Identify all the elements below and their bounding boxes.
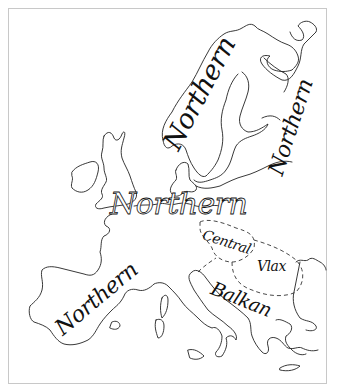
balearic-island [110, 321, 120, 329]
greece-coastline [276, 319, 306, 370]
balkan-region-boundary [198, 258, 216, 272]
label-northern-central: Northern [110, 186, 247, 221]
eastern-border [293, 258, 326, 330]
sicily [188, 349, 204, 359]
corsica-sardinia [155, 295, 168, 338]
ireland-coastline [71, 161, 98, 192]
label-vlax: Vlax [257, 258, 286, 274]
